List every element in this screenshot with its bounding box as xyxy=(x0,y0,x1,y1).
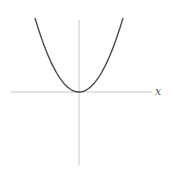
parabola-plot xyxy=(0,0,174,170)
x-axis-label: x xyxy=(155,86,161,97)
